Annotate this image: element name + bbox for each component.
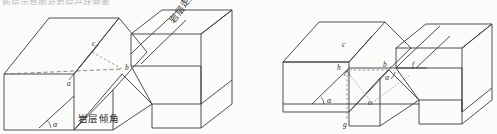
figure-canvas: 断层示意图及岩层产状要素 — [0, 0, 497, 134]
block-diagram-svg: c a b α — [0, 0, 497, 134]
label-h-right: h — [337, 63, 341, 72]
left-block-detached — [131, 10, 232, 128]
label-b-left: b — [125, 63, 129, 72]
label-b-right: b — [383, 60, 387, 69]
label-a-left: a — [67, 79, 71, 88]
label-alpha-left: α — [53, 120, 58, 129]
label-g-right: g — [343, 120, 347, 129]
right-block-detached — [396, 24, 492, 124]
label-o-right: o — [368, 98, 372, 107]
label-c-right: c — [342, 40, 346, 49]
label-c-left: c — [92, 39, 96, 48]
dip-angle-annotation: 岩层倾角 — [78, 111, 120, 125]
label-alpha-right-upper: α — [385, 73, 390, 82]
right-block-main — [283, 22, 427, 126]
